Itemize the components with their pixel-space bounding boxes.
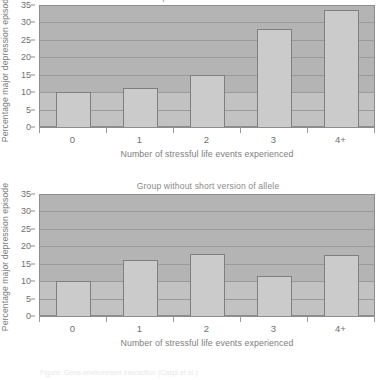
bar <box>324 10 359 127</box>
y-tick-mark <box>31 246 35 247</box>
x-tick-label: 3 <box>271 323 276 334</box>
bar <box>56 281 91 316</box>
y-tick-mark <box>31 5 35 6</box>
y-tick-label: 30 <box>21 206 31 216</box>
chart-title: Group with short version of allele <box>40 0 376 2</box>
x-tick-mark <box>173 316 174 322</box>
y-tick-mark <box>31 22 35 23</box>
x-axis-line <box>39 316 375 317</box>
y-axis-label: Percentage major depression episode <box>0 0 14 144</box>
y-tick-mark <box>31 74 35 75</box>
x-tick-label: 1 <box>137 134 142 145</box>
y-axis-label-text: Percentage major depression episode <box>0 0 10 144</box>
x-tick-mark <box>106 316 107 322</box>
x-tick-mark <box>307 127 308 133</box>
chart-panel-bottom: Group without short version of allele Pe… <box>0 181 380 359</box>
bar <box>190 75 225 127</box>
plot-area <box>39 194 375 316</box>
x-tick-mark <box>173 127 174 133</box>
x-tick-label: 2 <box>204 134 209 145</box>
gridline <box>40 229 375 230</box>
y-tick-label: 15 <box>21 70 31 80</box>
x-tick-mark <box>240 316 241 322</box>
plot-top-border <box>40 5 375 6</box>
bar <box>324 255 359 316</box>
y-tick-mark <box>31 39 35 40</box>
x-tick-label: 2 <box>204 323 209 334</box>
y-tick-mark <box>31 92 35 93</box>
x-tick-mark <box>39 127 40 133</box>
x-axis-line <box>39 127 375 128</box>
x-tick-mark <box>240 127 241 133</box>
y-axis-ticks: 05101520253035 <box>14 5 35 127</box>
bar <box>123 260 158 316</box>
y-tick-label: 15 <box>21 259 31 269</box>
bar <box>123 88 158 127</box>
gridline <box>40 211 375 212</box>
gridline <box>40 246 375 247</box>
y-axis-ticks: 05101520253035 <box>14 194 35 316</box>
y-tick-label: 25 <box>21 224 31 234</box>
x-tick-mark <box>374 127 375 133</box>
y-tick-label: 20 <box>21 241 31 251</box>
y-tick-mark <box>31 127 35 128</box>
y-tick-label: 10 <box>21 276 31 286</box>
x-tick-label: 1 <box>137 323 142 334</box>
bar <box>56 92 91 127</box>
y-tick-mark <box>31 109 35 110</box>
x-tick-mark <box>106 127 107 133</box>
y-tick-mark <box>31 57 35 58</box>
y-tick-mark <box>31 211 35 212</box>
x-tick-label: 0 <box>70 134 75 145</box>
x-tick-mark <box>374 316 375 322</box>
y-tick-label: 10 <box>21 87 31 97</box>
y-tick-mark <box>31 228 35 229</box>
bar <box>257 29 292 127</box>
y-tick-label: 25 <box>21 35 31 45</box>
y-tick-label: 30 <box>21 17 31 27</box>
x-axis-label: Number of stressful life events experien… <box>39 338 375 348</box>
x-tick-label: 4+ <box>335 134 346 145</box>
bar <box>190 254 225 316</box>
x-tick-label: 3 <box>271 134 276 145</box>
bar <box>257 276 292 316</box>
x-tick-mark <box>307 316 308 322</box>
y-tick-label: 35 <box>21 189 31 199</box>
chart-title: Group without short version of allele <box>40 181 376 191</box>
y-axis-label-text: Percentage major depression episode <box>0 181 10 333</box>
plot-top-border <box>40 194 375 195</box>
plot-area <box>39 5 375 127</box>
y-axis-label: Percentage major depression episode <box>0 181 14 333</box>
y-tick-mark <box>31 298 35 299</box>
y-tick-mark <box>31 194 35 195</box>
y-tick-mark <box>31 281 35 282</box>
x-tick-label: 4+ <box>335 323 346 334</box>
x-tick-label: 0 <box>70 323 75 334</box>
y-tick-label: 35 <box>21 0 31 10</box>
y-tick-label: 20 <box>21 52 31 62</box>
chart-panel-top: Group with short version of allele Perce… <box>0 0 380 170</box>
y-tick-mark <box>31 316 35 317</box>
x-axis-label: Number of stressful life events experien… <box>39 149 375 159</box>
y-tick-mark <box>31 263 35 264</box>
x-tick-mark <box>39 316 40 322</box>
figure-caption: Figure: Gene-environment interaction (Ca… <box>40 369 340 376</box>
